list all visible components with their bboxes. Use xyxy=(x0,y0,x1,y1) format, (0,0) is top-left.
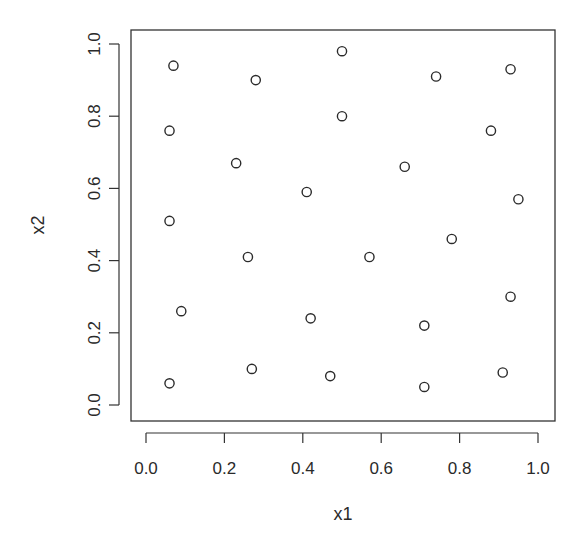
data-point xyxy=(326,372,335,381)
data-point xyxy=(337,112,346,121)
y-tick-label: 0.8 xyxy=(85,104,104,128)
data-point xyxy=(506,65,515,74)
data-point xyxy=(165,379,174,388)
y-tick-label: 1.0 xyxy=(85,32,104,56)
x-tick-label: 0.8 xyxy=(448,459,472,478)
data-point xyxy=(420,382,429,391)
scatter-chart: 0.00.20.40.60.81.0 0.00.20.40.60.81.0 x1… xyxy=(0,0,585,541)
data-point xyxy=(177,307,186,316)
data-point xyxy=(165,126,174,135)
y-tick-label: 0.0 xyxy=(85,393,104,417)
data-point xyxy=(447,234,456,243)
data-point xyxy=(337,47,346,56)
data-point xyxy=(431,72,440,81)
data-point xyxy=(232,159,241,168)
data-point xyxy=(165,216,174,225)
data-point xyxy=(420,321,429,330)
x-tick-label: 0.0 xyxy=(134,459,158,478)
x-tick-label: 0.4 xyxy=(291,459,315,478)
data-point xyxy=(498,368,507,377)
data-point xyxy=(251,76,260,85)
data-point xyxy=(365,252,374,261)
data-point xyxy=(506,292,515,301)
data-point xyxy=(302,187,311,196)
x-tick-label: 1.0 xyxy=(526,459,550,478)
y-tick-label: 0.6 xyxy=(85,177,104,201)
data-point xyxy=(306,314,315,323)
y-tick-label: 0.2 xyxy=(85,321,104,345)
data-point xyxy=(400,162,409,171)
y-tick-label: 0.4 xyxy=(85,249,104,273)
data-points xyxy=(165,47,523,392)
y-axis-label: x2 xyxy=(28,215,48,234)
data-point xyxy=(486,126,495,135)
x-tick-label: 0.2 xyxy=(213,459,237,478)
data-point xyxy=(514,195,523,204)
plot-box xyxy=(131,30,555,421)
y-axis: 0.00.20.40.60.81.0 xyxy=(85,32,119,417)
data-point xyxy=(243,252,252,261)
x-axis-label: x1 xyxy=(333,504,352,524)
data-point xyxy=(247,364,256,373)
x-axis: 0.00.20.40.60.81.0 xyxy=(134,433,550,478)
x-tick-label: 0.6 xyxy=(369,459,393,478)
data-point xyxy=(169,61,178,70)
